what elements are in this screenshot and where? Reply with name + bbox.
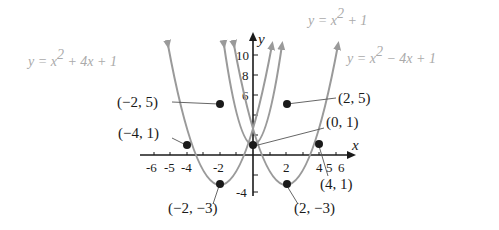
point (249, 141, 257, 149)
point (216, 100, 224, 108)
point-label: (2, 5) (338, 90, 371, 107)
equation-right: y = x2 − 4x + 1 (345, 44, 436, 66)
x-tick-label: 2 (283, 160, 290, 175)
x-tick-label: 6 (338, 160, 345, 175)
equation-left: y = x2 + 4x + 1 (26, 47, 117, 69)
x-tick-label: -4 (181, 160, 192, 175)
svg-text:y = x2 + 4x + 1: y = x2 + 4x + 1 (26, 47, 117, 69)
point-label: (−4, 1) (118, 125, 159, 142)
point (183, 141, 191, 149)
svg-text:y = x2 + 1: y = x2 + 1 (306, 6, 367, 28)
x-tick-label: -6 (146, 160, 157, 175)
x-tick-label: -2 (213, 160, 224, 175)
point-label: (4, 1) (320, 176, 353, 193)
parabola-graph: x y -6 -5 -4 -2 2 4 5 6 10 8 6 -4 (0, 0, 499, 230)
svg-text:y = x2 − 4x + 1: y = x2 − 4x + 1 (345, 44, 436, 66)
x-tick-label: -5 (164, 160, 175, 175)
point (315, 140, 323, 148)
point-label: (−2, 5) (117, 94, 158, 111)
point (283, 180, 291, 188)
equation-center: y = x2 + 1 (306, 6, 367, 28)
point-label: (−2, −3) (168, 200, 217, 217)
point-label: (0, 1) (326, 114, 359, 131)
point (283, 100, 291, 108)
x-axis-label: x (351, 137, 359, 153)
x-tick-label: 4 (316, 160, 323, 175)
y-tick-label: -4 (236, 185, 247, 200)
point (216, 180, 224, 188)
y-tick-label: 8 (242, 68, 249, 83)
point-label: (2, −3) (294, 200, 335, 217)
y-axis-label: y (256, 31, 265, 47)
